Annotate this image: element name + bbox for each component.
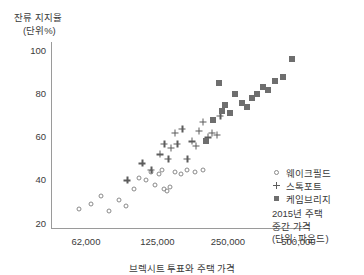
data-point-circle [124, 204, 129, 209]
data-point-circle [193, 169, 198, 174]
data-point-circle [156, 171, 161, 176]
data-point-square [232, 91, 238, 97]
plus-marker-icon [272, 180, 283, 191]
figure-caption: 브렉시트 투표와 주택 가격 [0, 261, 364, 275]
legend-item-label: 웨이크필드 [286, 166, 331, 180]
data-point-circle [179, 171, 184, 176]
data-point-square [244, 104, 250, 110]
data-point-square [203, 138, 209, 144]
y-axis-title: 잔류 지지율 (단위%) [14, 11, 62, 37]
y-tick-label: 20 [20, 218, 46, 229]
data-point-plus [148, 166, 155, 173]
legend-item[interactable]: 케임브리지 [272, 192, 364, 205]
data-point-plus [139, 160, 146, 167]
circle-marker-icon [272, 167, 283, 178]
data-point-square [227, 110, 233, 116]
x-axis-title: 2015년 주택중간 가격(단위: 파운드) [272, 208, 364, 246]
data-point-circle [152, 182, 157, 187]
data-point-square [219, 108, 225, 114]
y-tick-label: 60 [20, 131, 46, 142]
data-point-circle [165, 189, 170, 194]
data-point-square [254, 91, 260, 97]
data-point-circle [144, 178, 149, 183]
y-tick-label: 80 [20, 88, 46, 99]
data-point-square [265, 87, 271, 93]
x-tick-label: 62,000 [51, 236, 121, 247]
legend: 웨이크필드스톡포트케임브리지 [272, 166, 364, 205]
data-point-circle [173, 169, 178, 174]
data-point-plus [192, 142, 199, 149]
data-point-circle [131, 187, 136, 192]
y-tick-label: 40 [20, 174, 46, 185]
x-axis-title-line: 중간 가격 [272, 221, 364, 234]
data-point-square [216, 80, 222, 86]
data-point-square [289, 56, 295, 62]
data-point-plus [124, 177, 131, 184]
data-point-circle [99, 193, 104, 198]
data-point-plus [179, 125, 186, 132]
data-point-plus [171, 129, 178, 136]
data-point-square [280, 74, 286, 80]
y-tick-label: 100 [20, 45, 46, 56]
data-point-plus [174, 140, 181, 147]
data-point-circle [77, 206, 82, 211]
data-point-circle [117, 197, 122, 202]
data-point-plus [165, 155, 172, 162]
x-axis-title-line: 2015년 주택 [272, 208, 364, 221]
data-point-plus [195, 127, 202, 134]
data-point-circle [136, 176, 141, 181]
data-point-plus [156, 151, 163, 158]
data-point-plus [200, 119, 207, 126]
x-axis-title-line: (단위: 파운드) [272, 233, 364, 246]
data-point-circle [185, 167, 190, 172]
legend-item[interactable]: 웨이크필드 [272, 166, 364, 179]
data-point-circle [107, 208, 112, 213]
data-point-square [272, 78, 278, 84]
legend-item[interactable]: 스톡포트 [272, 179, 364, 192]
data-point-circle [88, 202, 93, 207]
legend-item-label: 스톡포트 [286, 179, 322, 193]
data-point-square [210, 117, 216, 123]
data-point-plus [184, 155, 191, 162]
y-axis-title-line2: (단위%) [14, 24, 62, 37]
data-point-circle [160, 167, 165, 172]
legend-item-label: 케임브리지 [286, 192, 331, 206]
square-marker-icon [272, 193, 283, 204]
data-point-circle [167, 184, 172, 189]
data-point-plus [213, 132, 220, 139]
x-tick-label: 125,000 [122, 236, 192, 247]
y-axis-title-line1: 잔류 지지율 [14, 12, 62, 23]
data-point-square [222, 102, 228, 108]
x-tick-label: 250,000 [193, 236, 263, 247]
data-point-circle [201, 167, 206, 172]
